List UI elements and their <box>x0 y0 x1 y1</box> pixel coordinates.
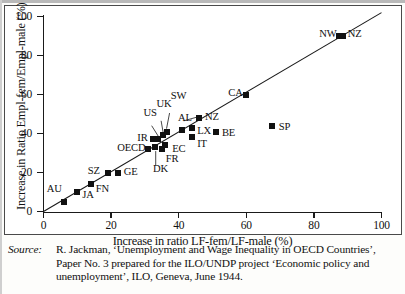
data-point-SW <box>164 129 170 135</box>
x-tick-label-100: 100 <box>367 220 397 232</box>
point-label-GE: GE <box>124 167 138 178</box>
data-point-SZ <box>105 170 111 176</box>
source-spacer-2 <box>4 270 56 284</box>
y-tick-80 <box>37 55 43 56</box>
x-tick-60 <box>246 212 247 218</box>
scatter-plot: 020406080100 020406080100 AUJAFNSZGEOECD… <box>0 0 405 240</box>
point-label-US: US <box>143 108 156 119</box>
point-label-CA: CA <box>228 88 242 99</box>
point-label-UK: UK <box>156 99 171 110</box>
x-tick-label-80: 80 <box>299 220 329 232</box>
source-spacer <box>4 257 56 271</box>
data-point-SP <box>269 123 275 129</box>
data-point-FN <box>88 181 94 187</box>
data-point-NZ <box>340 33 346 39</box>
data-point-LX <box>189 125 195 131</box>
point-label-DK: DK <box>153 164 168 175</box>
y-tick-20 <box>37 172 43 173</box>
data-point-EC <box>162 142 168 148</box>
x-tick-label-0: 0 <box>29 220 59 232</box>
leader-line-US <box>152 126 159 137</box>
point-label-NW: NW <box>319 29 336 40</box>
source-line-3: unemployment’, ILO, Geneva, June 1944. <box>56 270 400 284</box>
point-label-EC: EC <box>172 144 185 155</box>
data-point-CA <box>243 92 249 98</box>
data-point-OECD <box>145 146 151 152</box>
data-point-AU <box>61 199 67 205</box>
point-label-IR: IR <box>137 133 147 144</box>
x-tick-80 <box>313 212 314 218</box>
data-point-AL <box>179 127 185 133</box>
x-tick-label-20: 20 <box>96 220 126 232</box>
data-point-NZ <box>196 115 202 121</box>
figure-page: 020406080100 020406080100 AUJAFNSZGEOECD… <box>0 0 405 294</box>
y-tick-60 <box>37 94 43 95</box>
source-label: Source: <box>4 243 56 257</box>
point-label-NZ: NZ <box>348 29 362 40</box>
point-label-OECD: OECD <box>117 143 145 154</box>
y-tick-100 <box>37 16 43 17</box>
point-label-IT: IT <box>197 139 207 150</box>
point-label-FR: FR <box>166 154 179 165</box>
x-tick-label-60: 60 <box>231 220 261 232</box>
y-axis-label: Increase in Ratio Empl-fem/Empl-male (%) <box>14 3 29 210</box>
data-point-DK <box>152 144 158 150</box>
x-tick-100 <box>381 212 382 218</box>
x-tick-label-40: 40 <box>164 220 194 232</box>
source-line-2: Paper No. 3 prepared for the ILO/UNDP pr… <box>56 257 400 271</box>
data-point-JA <box>74 189 80 195</box>
point-label-SZ: SZ <box>88 166 100 177</box>
source-note: Source: R. Jackman, ‘Unemployment and Wa… <box>4 243 400 284</box>
x-tick-0 <box>43 212 44 218</box>
point-label-SP: SP <box>279 122 290 133</box>
point-label-AU: AU <box>47 184 62 195</box>
point-label-SW: SW <box>171 91 187 102</box>
x-tick-40 <box>178 212 179 218</box>
point-label-AL: AL <box>178 113 192 124</box>
y-tick-40 <box>37 133 43 134</box>
point-label-FN: FN <box>96 184 109 195</box>
x-tick-20 <box>110 212 111 218</box>
data-point-BE <box>213 129 219 135</box>
data-point-IT <box>189 134 195 140</box>
point-label-LX: LX <box>197 126 211 137</box>
point-label-NZ: NZ <box>205 112 219 123</box>
leader-line-UK <box>161 121 163 133</box>
leader-line-SW <box>167 113 170 129</box>
source-line-1: R. Jackman, ‘Unemployment and Wage Inequ… <box>56 243 400 257</box>
point-label-BE: BE <box>222 128 235 139</box>
point-label-JA: JA <box>82 190 93 201</box>
data-point-GE <box>115 170 121 176</box>
